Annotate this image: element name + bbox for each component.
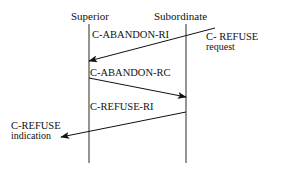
note-c-refuse-request-line2: request	[206, 42, 258, 53]
note-c-refuse-indication-line2: indication	[11, 131, 61, 142]
message-arrow-c-refuse-ri	[61, 112, 186, 137]
message-label-c-abandon-rc: C-ABANDON-RC	[90, 67, 171, 78]
message-label-c-refuse-ri: C-REFUSE-RI	[90, 101, 154, 112]
sequence-diagram: Superior Subordinate C-ABANDON-RI C-ABAN…	[0, 0, 284, 173]
message-arrow-c-abandon-rc	[89, 78, 186, 97]
participant-label-superior: Superior	[71, 11, 109, 23]
note-c-refuse-request: C- REFUSE request	[206, 31, 258, 53]
message-label-c-abandon-ri: C-ABANDON-RI	[92, 29, 169, 40]
participant-label-subordinate: Subordinate	[154, 11, 207, 23]
note-c-refuse-indication: C-REFUSE indication	[11, 120, 61, 142]
diagram-canvas	[0, 0, 284, 173]
